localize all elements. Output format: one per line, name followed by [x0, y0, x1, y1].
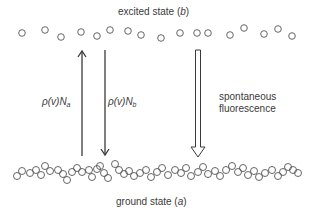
absorption-rate-subscript: a	[67, 101, 71, 108]
atom-circle	[262, 170, 269, 177]
absorption-rate-text: ρ(v)N	[42, 96, 67, 107]
atom-circle	[89, 174, 96, 181]
atom-circle	[86, 167, 93, 174]
atom-circle	[261, 31, 268, 38]
atom-circle	[105, 175, 112, 182]
atom-circle	[116, 167, 123, 174]
atom-circle	[125, 28, 132, 35]
excited-state-label-text: excited state (	[118, 6, 180, 17]
atom-circle	[240, 165, 247, 172]
excited-state-label: excited state (b)	[118, 6, 189, 17]
ground-state-label-close: )	[183, 196, 186, 207]
atom-circle	[165, 172, 172, 179]
atom-circle	[154, 169, 161, 176]
atom-circle	[200, 164, 207, 171]
atom-circle	[194, 30, 201, 37]
atom-circle	[101, 170, 108, 177]
atom-circle	[138, 32, 145, 39]
atom-circle	[19, 168, 26, 175]
atom-circle	[78, 29, 85, 36]
atom-circle	[47, 168, 54, 175]
atom-circle	[158, 35, 165, 42]
atom-circle	[94, 33, 101, 40]
atom-circle	[188, 173, 195, 180]
atom-circle	[19, 30, 26, 37]
atom-circle	[275, 26, 282, 33]
atom-circle	[107, 27, 114, 34]
absorption-arrow	[78, 51, 86, 156]
atom-circle	[55, 167, 62, 174]
atom-circle	[58, 34, 65, 41]
stimulated-emission-rate-text: ρ(v)N	[108, 96, 133, 107]
atom-circle	[289, 33, 296, 40]
fluorescence-label-line2: fluorescence	[219, 103, 276, 115]
ground-state-label-text: ground state (	[116, 196, 178, 207]
atom-circle	[251, 168, 258, 175]
atom-circle	[79, 169, 86, 176]
atom-circle	[235, 169, 242, 176]
atom-circle	[159, 165, 166, 172]
atom-circle	[205, 171, 212, 178]
ground-state-atoms	[14, 161, 302, 184]
excited-state-atoms	[19, 25, 296, 42]
fluorescence-label-line1: spontaneous	[219, 91, 276, 103]
atom-circle	[275, 173, 282, 180]
atom-circle	[69, 169, 76, 176]
excited-state-label-close: )	[186, 6, 189, 17]
fluorescence-label: spontaneous fluorescence	[219, 91, 276, 115]
atom-circle	[227, 32, 234, 39]
atom-circle	[143, 167, 150, 174]
atom-circle	[269, 167, 276, 174]
stimulated-emission-rate-label: ρ(v)Nb	[108, 96, 137, 110]
absorption-rate-label: ρ(v)Na	[42, 96, 71, 110]
atom-circle	[229, 163, 236, 170]
atom-circle	[74, 165, 81, 172]
ground-state-label: ground state (a)	[116, 196, 187, 207]
atom-circle	[42, 27, 49, 34]
atom-circle	[217, 173, 224, 180]
atom-circle	[205, 30, 212, 37]
atom-circle	[148, 174, 155, 181]
fluorescence-hollow-arrow	[191, 50, 205, 157]
atom-circle	[183, 165, 190, 172]
atom-circle	[38, 172, 45, 179]
atom-circle	[241, 25, 248, 32]
atom-circle	[64, 177, 71, 184]
atom-circle	[177, 30, 184, 37]
stimulated-emission-rate-subscript: b	[133, 101, 137, 108]
